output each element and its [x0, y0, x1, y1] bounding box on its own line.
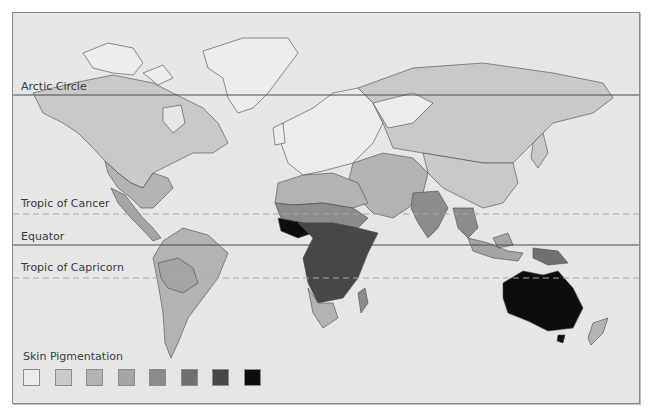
region-southeast-asia	[453, 208, 478, 238]
legend-swatch-8	[244, 369, 261, 386]
tropic-of-cancer-label: Tropic of Cancer	[21, 197, 110, 210]
tropic-of-capricorn-label: Tropic of Capricorn	[21, 261, 124, 274]
region-indonesia	[468, 233, 523, 261]
region-new-zealand	[588, 318, 608, 345]
equator-label: Equator	[21, 230, 64, 243]
region-south-america	[153, 228, 228, 358]
legend-swatch-6	[181, 369, 198, 386]
region-australia	[503, 271, 583, 331]
legend-swatch-3	[86, 369, 103, 386]
legend-swatch-1	[23, 369, 40, 386]
region-madagascar	[358, 288, 368, 313]
legend-swatch-7	[212, 369, 229, 386]
map-frame: Arctic Circle Tropic of Cancer Equator T…	[12, 12, 640, 404]
region-greenland	[203, 38, 298, 113]
legend-swatch-5	[149, 369, 166, 386]
region-new-guinea	[533, 248, 568, 265]
region-uk	[273, 123, 285, 145]
legend-swatch-4	[118, 369, 135, 386]
legend-swatch-2	[55, 369, 72, 386]
arctic-circle-label: Arctic Circle	[21, 80, 87, 93]
legend-title: Skin Pigmentation	[23, 350, 123, 363]
region-tasmania	[557, 335, 565, 343]
legend	[23, 369, 275, 386]
